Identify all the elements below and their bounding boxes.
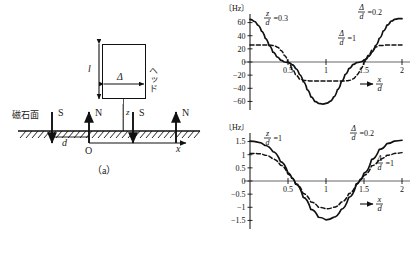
svg-text:=0.3: =0.3	[274, 14, 289, 23]
length-label: l	[88, 64, 91, 74]
y-tick-label: −60	[233, 97, 246, 106]
y-tick-label: −1	[237, 203, 246, 212]
x-tick-label: 0.5	[283, 185, 293, 194]
pole-label-s2: S	[139, 107, 145, 118]
y-tick-label: 1	[242, 151, 246, 160]
pitch-label: d	[62, 138, 67, 148]
y-tick-label: −40	[233, 84, 246, 93]
pole-label-n2: N	[182, 107, 189, 118]
fraction-label: xd	[376, 74, 383, 93]
chart-lower: 〔Hz〕1.510.50−0.5−1−1.50.511.52zd=1Δd=0.2…	[210, 124, 416, 244]
unit-label: 〔Hz〕	[224, 4, 249, 13]
y-tick-label: 40	[238, 32, 246, 41]
y-tick-label: 1.5	[236, 137, 246, 146]
unit-label: 〔Hz〕	[224, 124, 249, 132]
fraction-label: Δd=1	[338, 29, 356, 47]
origin-label: O	[85, 146, 92, 156]
svg-text:=0.2: =0.2	[368, 8, 383, 17]
panel-a-schematic: l Δ ヘッド z 磁石面 d O x S N S N （a）	[0, 0, 210, 253]
y-tick-label: 0	[242, 177, 246, 186]
svg-text:d: d	[377, 83, 382, 93]
x-axis-label: x	[176, 144, 180, 154]
fraction-label: zd=1	[264, 129, 282, 147]
fraction-label: Δd=1	[376, 154, 394, 172]
panel-b-charts: 〔Hz〕6040200−20−40−600.511.52zd=0.3Δd=0.2…	[210, 0, 416, 253]
y-tick-label: 60	[238, 18, 246, 27]
x-tick-label: 1	[324, 66, 328, 75]
magnet-surface-label: 磁石面	[12, 111, 39, 120]
fraction-label: Δd=0.2	[358, 3, 382, 21]
x-tick-label: 2	[400, 66, 404, 75]
height-label: z	[126, 108, 130, 117]
panel-a-caption: （a）	[92, 166, 116, 176]
fraction-label: xd	[376, 194, 383, 213]
svg-text:d: d	[377, 203, 382, 213]
head-label: ヘッド	[148, 66, 157, 93]
pole-label-s1: S	[58, 107, 64, 118]
x-tick-label: 1	[324, 185, 328, 194]
y-tick-label: −20	[233, 71, 246, 80]
svg-text:d: d	[378, 163, 383, 172]
y-tick-label: 0	[242, 58, 246, 67]
pole-label-n1: N	[95, 107, 102, 118]
svg-text:d: d	[352, 133, 357, 142]
svg-text:=1: =1	[274, 134, 283, 143]
svg-text:=1: =1	[348, 34, 357, 43]
panel-a-drawing	[0, 0, 210, 253]
y-tick-label: 20	[238, 45, 246, 54]
chart-upper: 〔Hz〕6040200−20−40−600.511.52zd=0.3Δd=0.2…	[210, 0, 416, 125]
y-tick-label: 0.5	[236, 164, 246, 173]
svg-text:d: d	[266, 138, 271, 147]
svg-text:d: d	[360, 12, 365, 21]
surface-hatching	[20, 131, 200, 138]
fraction-label: zd=0.3	[264, 9, 288, 27]
svg-text:=0.2: =0.2	[360, 129, 375, 138]
x-tick-label: 2	[400, 185, 404, 194]
x-tick-label: 1.5	[359, 185, 369, 194]
svg-text:=1: =1	[386, 159, 395, 168]
gap-label: Δ	[117, 72, 123, 82]
fraction-label: Δd=0.2	[350, 124, 374, 142]
y-tick-label: −0.5	[231, 190, 246, 199]
y-tick-label: −1.5	[231, 216, 246, 225]
svg-text:d: d	[266, 18, 271, 27]
x-tick-label: 1.5	[359, 66, 369, 75]
svg-text:d: d	[340, 38, 345, 47]
